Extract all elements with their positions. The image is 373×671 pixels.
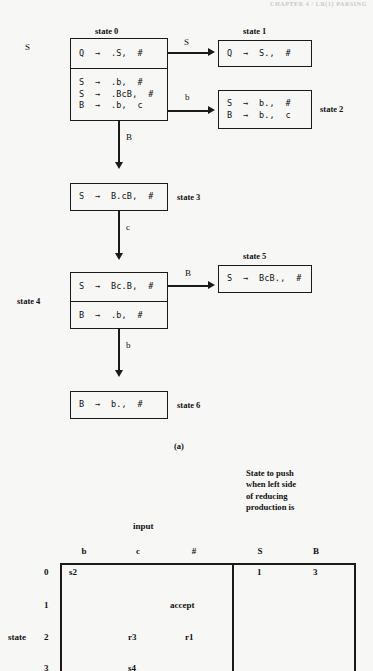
edge-s3-s4-arrowhead — [115, 253, 123, 260]
edge-s4-s6-symbol: b — [126, 340, 131, 350]
edge-s0-s2-symbol: b — [185, 92, 190, 102]
table-top-rule — [60, 563, 356, 565]
table-cell-1-hash[interactable]: accept — [170, 600, 195, 610]
state-6-box[interactable]: B → b., # — [70, 391, 168, 419]
state-1-label: state 1 — [243, 26, 266, 36]
table-cell-0-B[interactable]: 3 — [313, 567, 318, 577]
state-3-items: S → B.cB, # — [71, 184, 167, 210]
state-3-label: state 3 — [177, 192, 200, 202]
table-col-header-B: B — [298, 546, 334, 556]
state-4-kernel: S → Bc.B, # — [71, 273, 167, 301]
production-item: S → .BcB, # — [79, 89, 167, 101]
edge-s3-s4-line — [118, 211, 120, 256]
state-6-items: B → b., # — [71, 392, 167, 418]
table-row-header-2: 2 — [44, 632, 49, 642]
table-row-header-1: 1 — [44, 600, 49, 610]
state-2-label: state 2 — [320, 104, 343, 114]
production-item: Q → .S, # — [79, 48, 167, 60]
table-col-header-hash: # — [176, 546, 212, 556]
entry-symbol-label: S — [25, 42, 30, 52]
table-cell-0-S[interactable]: 1 — [257, 567, 262, 577]
edge-s4-s5-symbol: B — [185, 268, 191, 278]
table-mid-rule — [232, 563, 234, 671]
edge-s0-s2-arrowhead — [208, 106, 215, 114]
table-right-rule — [354, 563, 356, 671]
table-cell-2-c[interactable]: r3 — [128, 632, 137, 642]
production-item: Q → S., # — [227, 48, 311, 60]
state-0-box[interactable]: Q → .S, # S → .b, # S → .BcB, # B → .b, … — [70, 38, 168, 121]
edge-s0-s3-symbol: B — [126, 132, 132, 142]
state-5-box[interactable]: S → BcB., # — [218, 265, 312, 293]
production-item: S → b., # — [227, 98, 311, 110]
edge-s4-s6-arrowhead — [115, 370, 123, 377]
table-row-header-0: 0 — [44, 567, 49, 577]
edge-s0-s1-arrowhead — [208, 48, 215, 56]
table-left-rule — [60, 563, 62, 671]
table-col-header-b: b — [66, 546, 102, 556]
edge-s0-s3-arrowhead — [115, 162, 123, 169]
state-2-box[interactable]: S → b., # B → b., c — [218, 90, 312, 129]
figure-caption: (a) — [174, 441, 184, 451]
edge-s0-s1-symbol: S — [184, 37, 189, 47]
table-col-header-S: S — [242, 546, 278, 556]
edge-s0-s1-line — [168, 52, 210, 54]
production-item: S → BcB., # — [227, 273, 311, 285]
edge-s4-s6-line — [118, 329, 120, 373]
production-item: B → b., # — [79, 399, 167, 411]
edge-s0-s3-line — [118, 121, 120, 165]
state-1-box[interactable]: Q → S., # — [218, 40, 312, 67]
goto-group-note: State to push when left side of reducing… — [246, 468, 361, 514]
running-header: CHAPTER 4 / LR(1) PARSING — [270, 1, 367, 7]
table-row-header-3: 3 — [44, 663, 49, 671]
state-3-box[interactable]: S → B.cB, # — [70, 183, 168, 211]
production-item: B → .b, c — [79, 100, 167, 112]
input-group-label: input — [133, 521, 154, 531]
table-row-axis-label: state — [8, 632, 26, 642]
state-0-closure: S → .b, # S → .BcB, # B → .b, c — [71, 68, 167, 120]
state-2-items: S → b., # B → b., c — [219, 91, 311, 128]
production-item: B → .b, # — [79, 310, 167, 322]
state-4-box[interactable]: S → Bc.B, # B → .b, # — [70, 272, 168, 329]
state-5-items: S → BcB., # — [219, 266, 311, 292]
edge-s3-s4-symbol: c — [126, 222, 130, 232]
state-1-items: Q → S., # — [219, 41, 311, 66]
table-col-header-c: c — [120, 546, 156, 556]
edge-s0-s2-line — [168, 110, 210, 112]
edge-s4-s5-line — [168, 285, 210, 287]
production-item: S → B.cB, # — [79, 191, 167, 203]
figure-page: CHAPTER 4 / LR(1) PARSING S state 0 Q → … — [0, 0, 373, 671]
production-item: S → .b, # — [79, 77, 167, 89]
state-6-label: state 6 — [177, 400, 200, 410]
production-item: B → b., c — [227, 110, 311, 122]
table-cell-3-c[interactable]: s4 — [128, 663, 136, 671]
state-4-label: state 4 — [17, 296, 40, 306]
table-cell-0-b[interactable]: s2 — [69, 567, 77, 577]
production-item: S → Bc.B, # — [79, 281, 167, 293]
edge-s4-s5-arrowhead — [208, 281, 215, 289]
state-4-closure: B → .b, # — [71, 301, 167, 330]
state-0-kernel: Q → .S, # — [71, 39, 167, 68]
table-cell-2-hash[interactable]: r1 — [185, 632, 194, 642]
state-0-label: state 0 — [95, 26, 118, 36]
state-5-label: state 5 — [243, 251, 266, 261]
